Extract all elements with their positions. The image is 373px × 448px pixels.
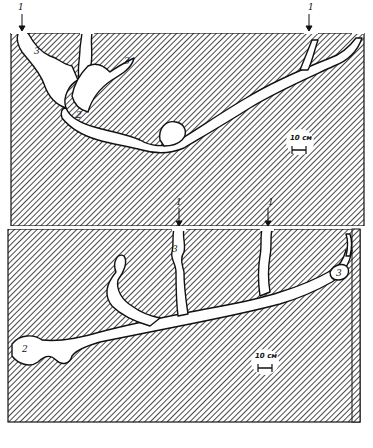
label-bottom-3-right: 3	[336, 268, 342, 278]
label-top-3-mid: 3	[124, 56, 130, 66]
scale-bar-bottom: 10 см	[251, 349, 279, 375]
burrow-diagram: 1 1 3 3 2 10 см	[0, 0, 373, 448]
label-top-1-left: 1	[18, 2, 24, 12]
label-bottom-3-mid: 3	[172, 244, 178, 254]
label-top-2-chamber: 2	[75, 110, 82, 120]
bottom-panel: 1 1 3 3 2 10 см	[0, 197, 373, 422]
label-top-1-right: 1	[308, 2, 314, 12]
label-bottom-1-left: 1	[176, 197, 182, 207]
label-bottom-2-chamber: 2	[21, 344, 28, 354]
svg-text:10 см: 10 см	[290, 134, 312, 142]
label-top-3-left: 3	[34, 46, 40, 56]
scale-bar-top: 10 см	[286, 129, 314, 155]
svg-text:10 см: 10 см	[255, 352, 277, 360]
label-bottom-1-right: 1	[268, 197, 274, 207]
top-panel: 1 1 3 3 2 10 см	[0, 0, 373, 226]
